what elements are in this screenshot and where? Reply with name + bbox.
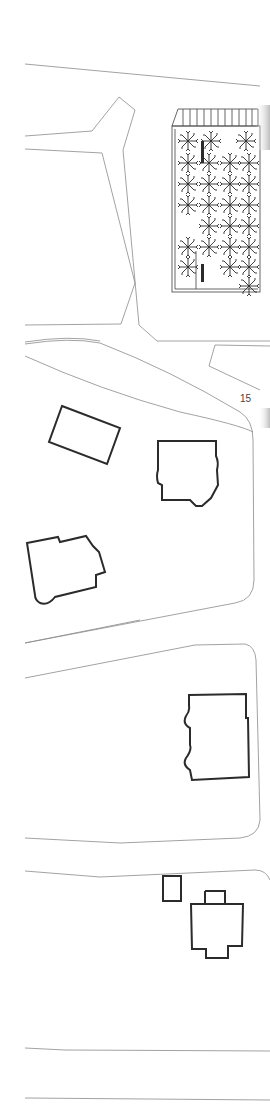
building-villa-a — [157, 441, 218, 506]
bench — [201, 264, 204, 282]
building-villa-d — [191, 891, 243, 958]
road-edge-lower — [25, 1048, 270, 1051]
page-number: 15 — [240, 393, 252, 404]
tree-grove — [178, 131, 259, 296]
road-edge-inner — [25, 356, 253, 432]
pergola — [172, 109, 258, 126]
building-villa-b — [27, 536, 105, 604]
site-plan-drawing: 15 — [0, 0, 270, 1118]
building-rotated — [49, 406, 120, 464]
villa-block-3 — [25, 870, 270, 1100]
road-edge-bottom — [25, 1098, 270, 1100]
building-villa-c — [185, 694, 249, 780]
page-edge-shadow — [258, 408, 270, 428]
villa-block-1: 15 — [25, 340, 270, 643]
villa-block-2 — [25, 620, 260, 843]
road-edge — [25, 340, 254, 643]
road-edge-upper — [25, 620, 140, 643]
road-edge — [25, 870, 270, 880]
forked-road — [25, 97, 270, 341]
bench — [201, 141, 204, 163]
road-edge — [25, 644, 260, 843]
road-edge-top — [25, 64, 260, 86]
building-annex — [163, 876, 181, 901]
side-road — [209, 345, 270, 390]
page-edge-shadow — [255, 105, 270, 150]
plaza-block — [25, 64, 270, 342]
forked-road-inner — [25, 149, 135, 325]
